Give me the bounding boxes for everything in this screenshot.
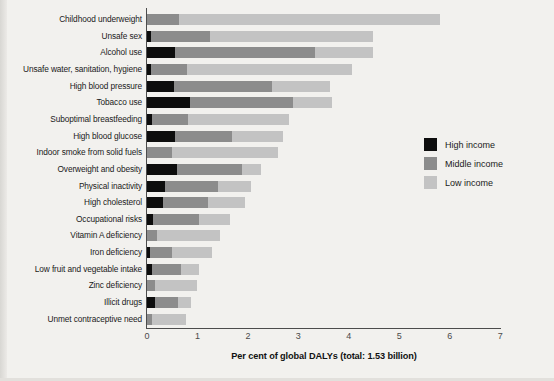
x-tick-label: 4 [346,331,351,341]
category-label: Zinc deficiency [2,280,142,291]
legend-label-low-income: Low income [445,178,493,188]
bar-segment-low-income [172,247,212,258]
legend-item-middle-income: Middle income [424,155,534,172]
bar-segment-high-income [147,197,163,208]
bar-segment-low-income [179,14,440,25]
legend-swatch-middle-income [424,157,437,170]
bar-segment-low-income [155,280,197,291]
bar-segment-middle-income [147,230,157,241]
bar-segment-middle-income [150,247,172,258]
bar-segment-low-income [208,197,245,208]
bar-segment-high-income [147,164,177,175]
bar-segment-low-income [188,114,289,125]
category-label: Alcohol use [2,47,142,58]
legend: High income Middle income Low income [424,136,534,193]
category-label: Physical inactivity [2,181,142,192]
category-label: Unsafe water, sanitation, hygiene [2,64,142,75]
category-label: Tobacco use [2,97,142,108]
bar-segment-middle-income [147,147,172,158]
bar-segment-low-income [152,314,186,325]
bar-segment-middle-income [153,214,199,225]
bar-segment-low-income [315,47,373,58]
bar-segment-high-income [147,131,175,142]
bar-segment-low-income [232,131,283,142]
bar-segment-low-income [172,147,278,158]
bar-segment-low-income [218,181,251,192]
category-label: High cholesterol [2,197,142,208]
bar-segment-high-income [147,97,190,108]
legend-label-middle-income: Middle income [445,159,503,169]
category-label: High blood pressure [2,81,142,92]
bar-segment-low-income [187,64,352,75]
category-label: Unmet contraceptive need [2,314,142,325]
bar-segment-high-income [147,297,155,308]
x-axis-title: Per cent of global DALYs (total: 1.53 bi… [147,351,501,361]
x-tick-label: 5 [397,331,402,341]
category-label: Iron deficiency [2,247,142,258]
bar-segment-low-income [181,264,199,275]
category-label: Childhood underweight [2,14,142,25]
category-label: High blood glucose [2,131,142,142]
category-label: Vitamin A deficiency [2,230,142,241]
x-tick-label: 6 [447,331,452,341]
x-tick-label: 3 [296,331,301,341]
legend-item-low-income: Low income [424,174,534,191]
bar-segment-low-income [178,297,191,308]
stacked-bar-chart: Childhood underweightUnsafe sexAlcohol u… [0,0,554,381]
bar-segment-middle-income [165,181,218,192]
bar-segment-middle-income [163,197,208,208]
x-tick-label: 1 [195,331,200,341]
legend-item-high-income: High income [424,136,534,153]
bar-segment-high-income [147,47,175,58]
bar-segment-middle-income [152,114,188,125]
category-axis-labels: Childhood underweightUnsafe sexAlcohol u… [0,8,142,328]
category-label: Occupational risks [2,214,142,225]
legend-swatch-low-income [424,176,437,189]
bar-segment-low-income [293,97,332,108]
bar-segment-high-income [147,81,174,92]
bar-segment-low-income [210,31,373,42]
bar-segment-middle-income [175,47,315,58]
bar-segment-high-income [147,181,165,192]
x-tick-label: 2 [245,331,250,341]
bar-segment-low-income [272,81,330,92]
bar-segment-middle-income [152,264,181,275]
bar-segment-middle-income [190,97,293,108]
category-label: Illicit drugs [2,297,142,308]
bar-segment-middle-income [151,64,187,75]
category-label: Low fruit and vegetable intake [2,264,142,275]
bar-segment-middle-income [175,131,232,142]
category-label: Indoor smoke from solid fuels [2,147,142,158]
bar-segment-low-income [199,214,230,225]
bar-segment-middle-income [174,81,272,92]
bar-segment-middle-income [155,297,178,308]
bar-segment-middle-income [177,164,242,175]
bar-segment-low-income [242,164,261,175]
category-label: Unsafe sex [2,31,142,42]
legend-swatch-high-income [424,138,437,151]
bar-segment-middle-income [151,31,210,42]
bar-segment-middle-income [147,280,155,291]
bar-segment-low-income [157,230,220,241]
bar-segment-middle-income [147,14,179,25]
x-tick-label: 0 [144,331,149,341]
legend-label-high-income: High income [445,140,495,150]
category-label: Overweight and obesity [2,164,142,175]
x-axis-line [147,328,501,329]
x-tick-label: 7 [498,331,503,341]
category-label: Suboptimal breastfeeding [2,114,142,125]
